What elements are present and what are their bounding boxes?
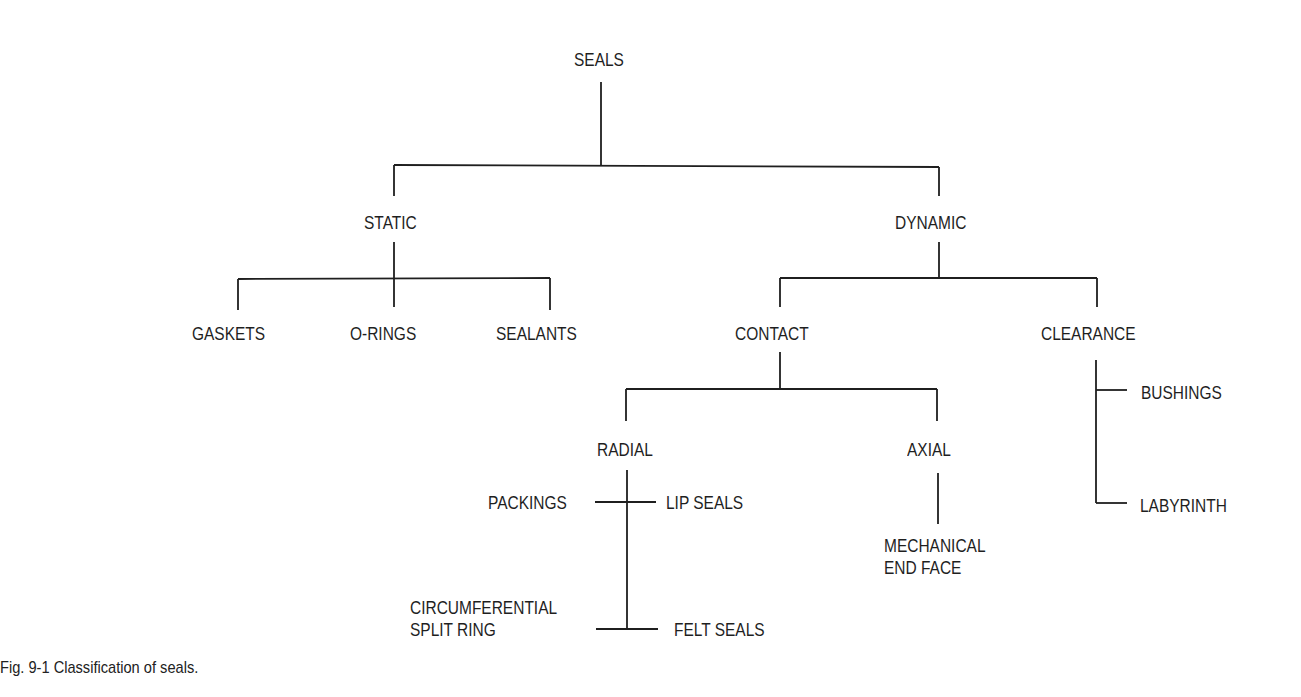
node-felt-seals: FELT SEALS bbox=[674, 620, 765, 640]
node-axial: AXIAL bbox=[907, 440, 951, 460]
node-static: STATIC bbox=[364, 213, 417, 233]
node-seals: SEALS bbox=[574, 50, 624, 70]
node-contact: CONTACT bbox=[735, 324, 809, 344]
node-circumferential-line1: CIRCUMFERENTIAL bbox=[410, 597, 557, 619]
node-mechanical-line1: MECHANICAL bbox=[884, 535, 986, 557]
node-circumferential-line2: SPLIT RING bbox=[410, 619, 557, 641]
node-gaskets: GASKETS bbox=[192, 324, 265, 344]
tree-connectors bbox=[0, 0, 1301, 697]
node-o-rings: O-RINGS bbox=[350, 324, 416, 344]
node-dynamic: DYNAMIC bbox=[895, 213, 966, 233]
node-packings: PACKINGS bbox=[488, 493, 567, 513]
figure-caption: Fig. 9-1 Classification of seals. bbox=[0, 658, 198, 678]
node-circumferential-split-ring: CIRCUMFERENTIAL SPLIT RING bbox=[410, 597, 557, 641]
node-labyrinth: LABYRINTH bbox=[1140, 496, 1227, 516]
node-sealants: SEALANTS bbox=[496, 324, 577, 344]
node-lip-seals: LIP SEALS bbox=[666, 493, 743, 513]
node-mechanical-line2: END FACE bbox=[884, 557, 986, 579]
node-clearance: CLEARANCE bbox=[1041, 324, 1136, 344]
node-bushings: BUSHINGS bbox=[1141, 383, 1222, 403]
node-mechanical-end-face: MECHANICAL END FACE bbox=[884, 535, 986, 579]
node-radial: RADIAL bbox=[597, 440, 653, 460]
